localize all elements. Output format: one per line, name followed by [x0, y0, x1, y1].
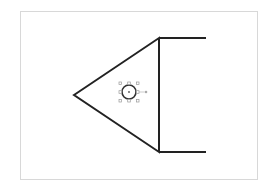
handle-s[interactable] — [128, 99, 131, 102]
center-point — [128, 91, 130, 93]
handle-n[interactable] — [128, 82, 131, 85]
handle-se[interactable] — [136, 99, 139, 102]
handle-ne[interactable] — [136, 82, 139, 85]
page-frame — [21, 12, 258, 180]
handle-e[interactable] — [136, 91, 139, 94]
drawing-canvas[interactable] — [0, 0, 272, 194]
handle-w[interactable] — [119, 91, 122, 94]
handle-nw[interactable] — [119, 82, 122, 85]
rotate-handle-icon[interactable] — [145, 91, 148, 94]
diagram-svg — [0, 0, 272, 194]
handle-sw[interactable] — [119, 99, 122, 102]
